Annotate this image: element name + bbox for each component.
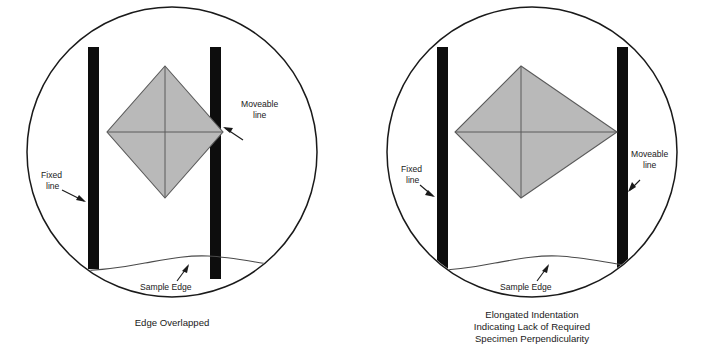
fixed-line-bar-right	[437, 47, 448, 269]
moveable-line-label-line2-right: line	[643, 160, 657, 170]
panel-caption-right-line3: Specimen Perpendicularity	[475, 333, 589, 344]
fixed-line-label-line2: line	[46, 181, 60, 191]
moveable-line-label-line1-right: Moveable	[631, 149, 668, 159]
fixed-line-label-line2-right: line	[406, 175, 420, 185]
moveable-line-bar-right	[617, 47, 628, 279]
panel-caption-left: Edge Overlapped	[135, 317, 210, 328]
moveable-line-bar-left	[210, 47, 221, 279]
indentation-diagram: Fixed line Moveable line Sample Edge Edg…	[0, 0, 716, 359]
fixed-line-bar-left	[88, 47, 99, 269]
moveable-line-label-line2: line	[253, 110, 267, 120]
moveable-line-label-line1: Moveable	[241, 99, 278, 109]
sample-edge-label-right: Sample Edge	[500, 282, 552, 292]
panel-caption-right-line2: Indicating Lack of Required	[474, 321, 590, 332]
sample-edge-label-left: Sample Edge	[140, 282, 192, 292]
panel-caption-right-line1: Elongated Indentation	[485, 309, 578, 320]
figure-background	[0, 0, 716, 359]
fixed-line-label-line1: Fixed	[41, 170, 62, 180]
fixed-line-label-line1-right: Fixed	[401, 164, 422, 174]
